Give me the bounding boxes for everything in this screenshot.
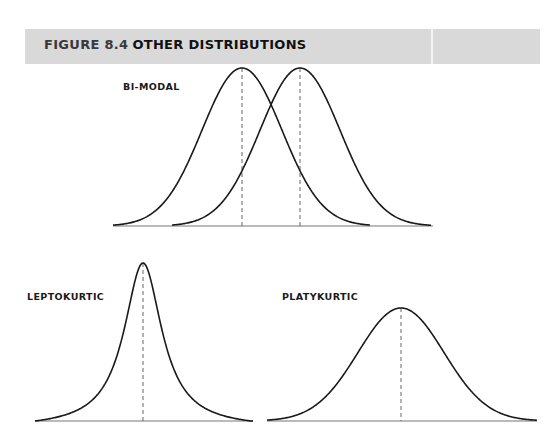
- bimodal-chart: [113, 68, 433, 226]
- leptokurtic-chart: [35, 263, 253, 421]
- bimodal-curve-2: [172, 68, 431, 225]
- platykurtic-chart: [267, 308, 537, 421]
- leptokurtic-curve: [35, 263, 253, 421]
- platykurtic-curve: [267, 308, 537, 420]
- distribution-plots: [0, 0, 560, 446]
